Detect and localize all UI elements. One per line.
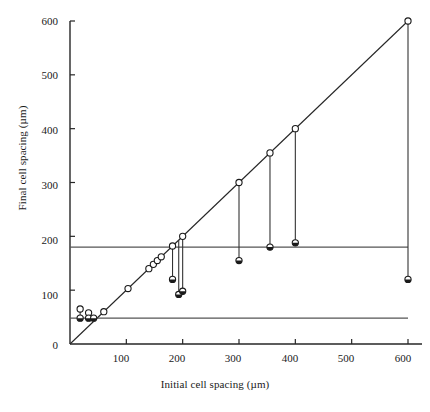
data-point-open[interactable] bbox=[180, 233, 186, 239]
plot-canvas bbox=[0, 0, 430, 412]
data-point-open[interactable] bbox=[158, 254, 164, 260]
data-point-open[interactable] bbox=[236, 179, 242, 185]
data-point-open[interactable] bbox=[101, 309, 107, 315]
data-point-open[interactable] bbox=[125, 285, 131, 291]
data-point-open[interactable] bbox=[405, 18, 411, 24]
scatter-plot-figure: Final cell spacing (µm) Initial cell spa… bbox=[0, 0, 430, 412]
data-point-open[interactable] bbox=[292, 126, 298, 132]
data-point-open[interactable] bbox=[267, 150, 273, 156]
data-point-open[interactable] bbox=[77, 306, 83, 312]
data-point-open[interactable] bbox=[169, 243, 175, 249]
